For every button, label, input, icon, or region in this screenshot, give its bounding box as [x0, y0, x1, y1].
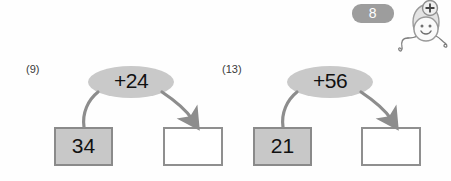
- problem-2-operation-bubble: +56: [287, 66, 373, 98]
- problem-1-operation-bubble: +24: [88, 66, 174, 98]
- plus-mascot: [392, 0, 451, 56]
- page-number-badge: 8: [352, 4, 394, 23]
- problem-2-left-connector: [283, 92, 297, 127]
- problem-1-start-value: 34: [72, 134, 95, 158]
- plus-mascot-icon: [392, 0, 451, 56]
- problem-2-start-box: 21: [253, 127, 312, 166]
- problem-2-label: (13): [222, 63, 242, 75]
- problem-1-start-box: 34: [54, 127, 113, 166]
- problem-2-answer-box[interactable]: [361, 127, 421, 166]
- problem-2-operation-text: +56: [313, 69, 347, 93]
- problem-1-operation-text: +24: [114, 69, 148, 93]
- problem-1-answer-box[interactable]: [163, 127, 223, 166]
- problem-1-right-arrow: [162, 92, 192, 119]
- problem-1-label: (9): [26, 63, 39, 75]
- problem-2-start-value: 21: [271, 134, 294, 158]
- problem-1-left-connector: [84, 92, 98, 127]
- problem-2-right-arrow: [361, 92, 391, 119]
- worksheet-page: 8 (9) +24 34: [0, 0, 451, 181]
